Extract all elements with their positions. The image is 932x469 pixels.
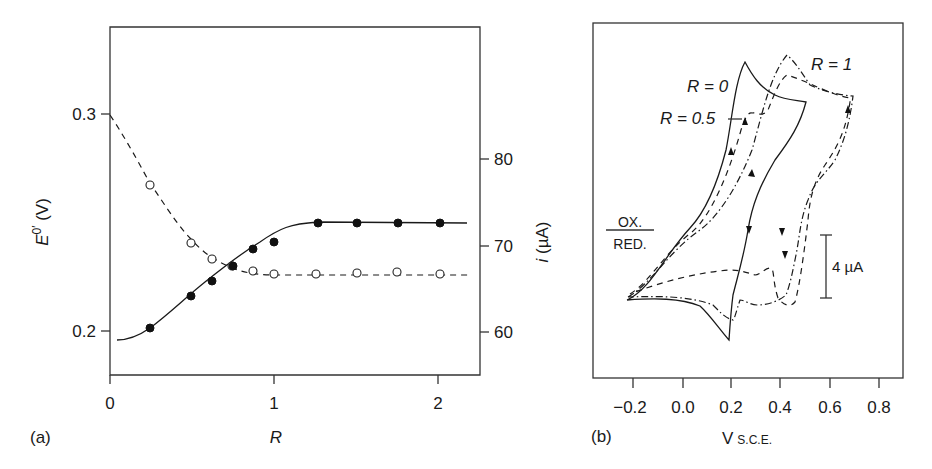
panel-a-frame	[110, 27, 480, 375]
label-red: RED.	[613, 236, 646, 252]
y-left-axis-title: E0′ (V)	[30, 198, 52, 246]
x-axis-title: R	[270, 428, 282, 447]
label-r1: R = 1	[811, 55, 852, 74]
x-tick-label: −0.2	[613, 398, 647, 417]
figure: 0 1 2 0.3 0.2 80 70 60 E0′ (V) i (µA) R …	[0, 0, 932, 469]
x-tick-label: 2	[433, 394, 442, 413]
panel-b-frame	[593, 23, 903, 378]
x-tick-label: 0.2	[719, 398, 743, 417]
svg-text:E0′ (V): E0′ (V)	[30, 198, 52, 246]
x-tick-label: 0.6	[818, 398, 842, 417]
y-right-axis-title: i (µA)	[533, 222, 552, 263]
y-right-tick-label: 70	[494, 237, 513, 256]
i-fit-curve	[110, 115, 468, 275]
y-right-tick-label: 80	[494, 150, 513, 169]
label-r05: R = 0.5	[660, 109, 716, 128]
x-tick-label: 0.8	[867, 398, 891, 417]
e0-fit-curve	[117, 222, 467, 340]
x-tick-label: 1	[269, 394, 278, 413]
x-tick-label: 0	[105, 394, 114, 413]
i-data-points	[146, 181, 444, 278]
y-left-tick-label: 0.2	[72, 322, 96, 341]
svg-text:i (µA): i (µA)	[533, 222, 552, 263]
cv-curve-r0	[627, 62, 806, 340]
x-axis-title: VS.C.E.	[722, 429, 772, 448]
x-tick-label: 0.4	[768, 398, 792, 417]
panel-label-a: (a)	[30, 428, 51, 447]
y-right-tick-label: 60	[494, 323, 513, 342]
label-ox: OX.	[618, 214, 642, 230]
panel-label-b: (b)	[591, 427, 612, 446]
scale-bar	[820, 235, 832, 298]
panel-b: −0.2 0.0 0.2 0.4 0.6 0.8 (b) VS.C.E. R =…	[591, 23, 903, 448]
cv-curve-r1	[628, 55, 853, 320]
y-left-tick-label: 0.3	[72, 105, 96, 124]
label-r0: R = 0	[687, 77, 729, 96]
panel-a: 0 1 2 0.3 0.2 80 70 60 E0′ (V) i (µA) R …	[30, 27, 552, 447]
scale-bar-label: 4 µA	[832, 258, 863, 275]
x-tick-label: 0.0	[671, 398, 695, 417]
